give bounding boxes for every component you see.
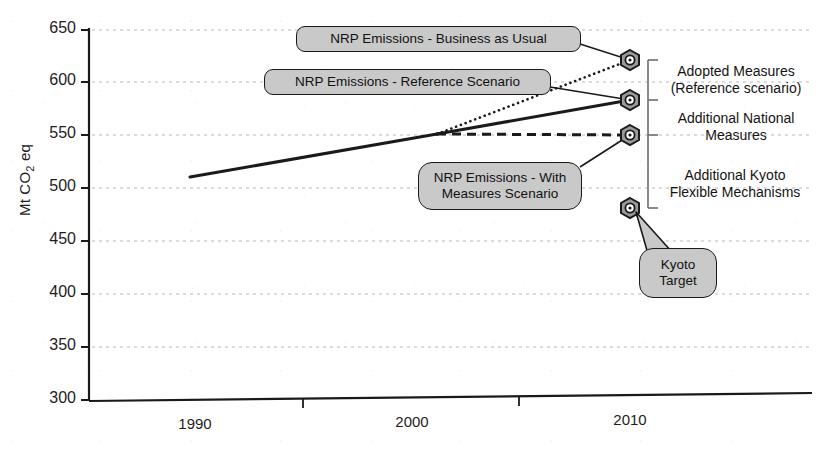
callout-with-measures[interactable]: NRP Emissions - With Measures Scenario [418,162,582,210]
callout-with-measures-line2: Measures Scenario [442,186,558,202]
y-tick-600: 600 [26,71,76,89]
y-tick-500: 500 [26,177,76,195]
bracket-label-additional-national-line2: Measures [660,127,812,144]
x-tick-2010: 2010 [590,411,670,428]
y-tick-550: 550 [26,124,76,142]
y-axis-title-unit: eq [16,144,33,165]
bracket-label-additional-national-line1: Additional National [660,110,812,127]
leader-reference-scenario [550,87,630,100]
y-tick-300: 300 [26,389,76,407]
x-axis-spine [89,393,812,401]
callout-reference-scenario-label: NRP Emissions - Reference Scenario [295,74,520,90]
x-tick-1990: 1990 [155,415,235,432]
y-tick-400: 400 [26,283,76,301]
bracket-label-adopted-measures-line1: Adopted Measures [660,63,812,80]
callout-reference-scenario[interactable]: NRP Emissions - Reference Scenario [264,69,551,95]
y-axis-title-subscript: 2 [24,165,36,171]
x-tick-2000: 2000 [372,413,452,430]
y-tick-450: 450 [26,230,76,248]
chart-root: Mt CO2 eq 650 600 550 500 450 400 350 30… [0,0,816,454]
data-markers [621,50,639,218]
callout-business-as-usual-label: NRP Emissions - Business as Usual [330,31,547,47]
marker-business-as-usual [621,50,639,70]
bracket-label-adopted-measures: Adopted Measures (Reference scenario) [660,63,812,96]
series-trunk [190,134,437,177]
marker-reference-scenario [621,90,639,110]
bracket-label-additional-kyoto: Additional Kyoto Flexible Mechanisms [656,167,814,200]
bracket-label-additional-national: Additional National Measures [660,110,812,143]
callout-kyoto-target-line1: Kyoto [661,257,696,273]
callout-kyoto-target-line2: Target [659,273,697,289]
bracket-label-additional-kyoto-line2: Flexible Mechanisms [656,184,814,201]
marker-with-measures [621,125,639,145]
bracket-label-additional-kyoto-line1: Additional Kyoto [656,167,814,184]
y-axis-ticks [81,30,89,400]
y-tick-650: 650 [26,19,76,37]
callout-with-measures-line1: NRP Emissions - With [434,170,567,186]
bracket-label-adopted-measures-line2: (Reference scenario) [660,80,812,97]
y-tick-350: 350 [26,336,76,354]
callout-kyoto-target[interactable]: Kyoto Target [639,248,717,298]
callout-business-as-usual[interactable]: NRP Emissions - Business as Usual [296,26,581,52]
series-reference-scenario [437,100,630,134]
